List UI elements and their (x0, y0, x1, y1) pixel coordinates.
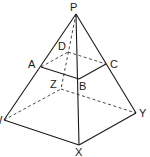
edge-XY (79, 113, 136, 145)
vertex-label-a: A (28, 58, 36, 70)
edge-WZ-hidden (4, 89, 61, 120)
edge-BC (79, 64, 106, 79)
vertex-labels: PDCABZWYX (0, 1, 147, 157)
vertex-label-y: Y (139, 107, 147, 119)
vertex-label-w: W (0, 114, 3, 126)
vertex-label-x: X (75, 146, 83, 157)
vertex-label-b: B (79, 80, 86, 92)
edge-PY (76, 14, 136, 113)
vertex-label-p: P (70, 1, 77, 13)
edge-ZY-hidden (61, 89, 136, 113)
edge-WX (4, 120, 79, 145)
edge-PW (4, 14, 76, 120)
pyramid-diagram: PDCABZWYX (0, 0, 150, 157)
vertex-label-d: D (58, 40, 66, 52)
edges (4, 14, 136, 145)
edge-AB (41, 67, 79, 79)
vertex-label-c: C (110, 58, 118, 70)
vertex-label-z: Z (50, 78, 57, 90)
